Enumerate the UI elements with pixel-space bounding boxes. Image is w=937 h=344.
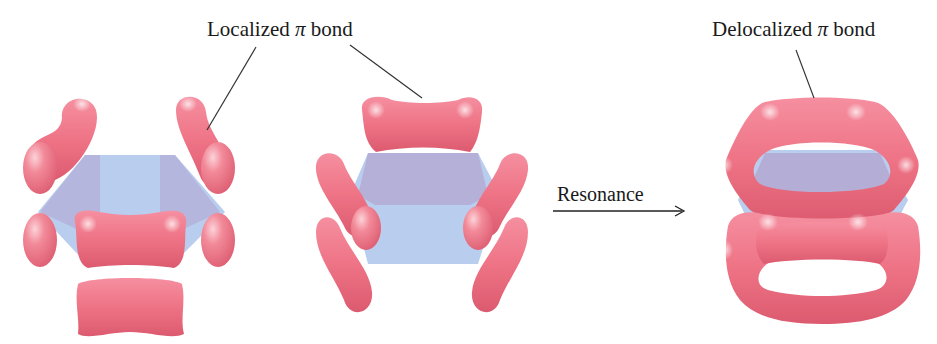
kekule-structure-2 bbox=[316, 97, 528, 312]
highlight bbox=[79, 215, 97, 233]
resonance-hybrid-structure bbox=[715, 98, 920, 325]
highlight bbox=[456, 101, 474, 119]
highlight bbox=[717, 240, 733, 260]
p-orbital-lobe bbox=[351, 206, 381, 250]
highlight bbox=[897, 156, 915, 174]
highlight bbox=[163, 215, 181, 233]
ring-plane-shadow bbox=[358, 153, 488, 205]
highlight bbox=[848, 213, 868, 231]
pi-bond-lobe-lower bbox=[77, 278, 184, 336]
leader-line bbox=[350, 45, 422, 98]
highlight bbox=[760, 103, 780, 121]
benzene-orbital-diagram bbox=[0, 0, 937, 344]
p-orbital-lobe bbox=[201, 142, 235, 194]
highlight bbox=[179, 96, 197, 112]
highlight bbox=[73, 96, 91, 112]
p-orbital-lobe bbox=[23, 213, 57, 267]
resonance-arrow bbox=[553, 206, 684, 216]
p-orbital-lobe bbox=[23, 142, 57, 194]
leader-line bbox=[207, 47, 256, 130]
highlight bbox=[367, 101, 385, 119]
highlight bbox=[715, 156, 733, 174]
pi-bond-segment bbox=[756, 222, 888, 264]
leader-line bbox=[796, 50, 814, 98]
kekule-structure-1 bbox=[23, 96, 235, 336]
highlight bbox=[758, 213, 778, 231]
p-orbital-lobe bbox=[201, 213, 235, 267]
p-orbital-lobe bbox=[463, 206, 493, 250]
highlight bbox=[846, 103, 866, 121]
